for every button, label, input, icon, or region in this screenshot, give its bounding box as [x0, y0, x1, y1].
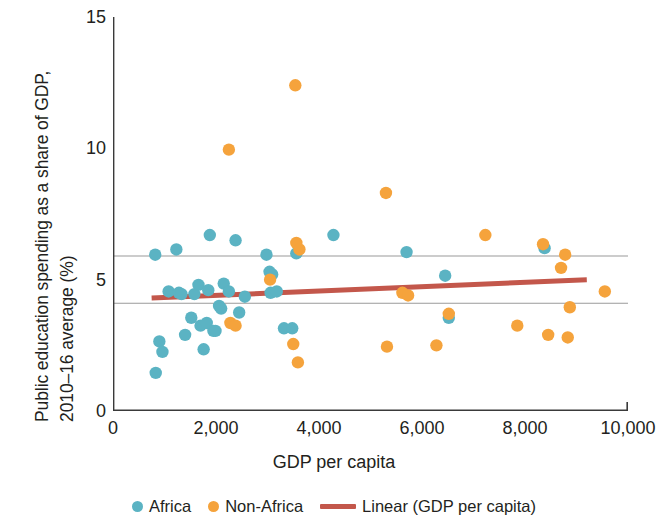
data-point — [555, 262, 567, 274]
data-point — [229, 234, 241, 246]
data-point — [562, 331, 574, 343]
data-point — [381, 340, 393, 352]
legend-label: Africa — [149, 497, 191, 516]
y-tick-label: 15 — [72, 8, 106, 26]
data-point — [149, 249, 161, 261]
data-point — [204, 229, 216, 241]
chart-legend: AfricaNon-AfricaLinear (GDP per capita) — [0, 497, 668, 516]
data-point — [402, 289, 414, 301]
axis-ticks — [113, 148, 525, 411]
data-point — [197, 343, 209, 355]
legend-line-icon — [320, 504, 356, 509]
legend-item-non-africa[interactable]: Non-Africa — [208, 497, 303, 516]
data-point — [179, 329, 191, 341]
legend-item-africa[interactable]: Africa — [132, 497, 191, 516]
data-point — [443, 308, 455, 320]
data-point — [479, 229, 491, 241]
x-tick-label: 0 — [108, 419, 118, 437]
x-tick-label: 2,000 — [193, 419, 238, 437]
axis-lines — [113, 17, 628, 411]
series-africa-points — [149, 229, 551, 379]
trendline — [152, 280, 587, 298]
data-point — [260, 249, 272, 261]
x-tick-label: 4,000 — [296, 419, 341, 437]
legend-label: Linear (GDP per capita) — [362, 497, 536, 516]
data-point — [153, 335, 165, 347]
y-tick-label: 10 — [72, 139, 106, 157]
scatter-chart-figure: Public education spending as a share of … — [0, 0, 668, 527]
data-point — [150, 367, 162, 379]
data-point — [559, 249, 571, 261]
data-point — [327, 229, 339, 241]
data-point — [239, 291, 251, 303]
y-axis-tick-labels: 051015 — [66, 0, 106, 430]
data-point — [542, 329, 554, 341]
data-point — [292, 356, 304, 368]
legend-label: Non-Africa — [225, 497, 303, 516]
plot-svg — [113, 17, 628, 411]
data-point — [286, 322, 298, 334]
data-point — [202, 284, 214, 296]
data-point — [439, 270, 451, 282]
x-tick-label: 10,000 — [600, 419, 655, 437]
plot-area — [113, 17, 628, 411]
data-point — [564, 301, 576, 313]
y-axis-title-line-1: Public education spending as a share of … — [32, 71, 53, 422]
data-point — [223, 285, 235, 297]
data-point — [156, 346, 168, 358]
data-point — [400, 246, 412, 258]
trendline-segment — [152, 280, 587, 298]
data-point — [233, 306, 245, 318]
data-point — [175, 288, 187, 300]
data-point — [229, 319, 241, 331]
x-tick-label: 8,000 — [502, 419, 547, 437]
data-point — [511, 319, 523, 331]
legend-dot-icon — [132, 501, 143, 512]
data-point — [537, 238, 549, 250]
data-point — [264, 273, 276, 285]
data-point — [223, 143, 235, 155]
x-axis-title: GDP per capita — [0, 452, 668, 473]
x-axis-tick-labels: 02,0004,0006,0008,00010,000 — [0, 419, 668, 449]
data-point — [293, 243, 305, 255]
legend-item-linear-gdp-per-capita[interactable]: Linear (GDP per capita) — [320, 497, 536, 516]
data-point — [380, 187, 392, 199]
data-point — [287, 338, 299, 350]
x-tick-label: 6,000 — [399, 419, 444, 437]
data-point — [271, 285, 283, 297]
y-tick-label: 5 — [72, 271, 106, 289]
data-point — [289, 79, 301, 91]
data-point — [215, 302, 227, 314]
data-point — [170, 243, 182, 255]
data-point — [209, 325, 221, 337]
y-tick-label: 0 — [72, 402, 106, 420]
data-point — [599, 285, 611, 297]
legend-dot-icon — [208, 501, 219, 512]
data-point — [430, 339, 442, 351]
